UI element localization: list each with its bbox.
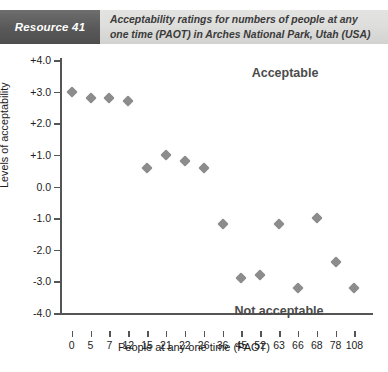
x-tick-mark [91, 331, 93, 337]
x-tick-mark [204, 331, 206, 337]
x-tick-mark [72, 331, 74, 337]
y-tick-label: 0.0 [36, 181, 51, 193]
y-tick-mark [54, 155, 60, 157]
data-point [141, 162, 152, 173]
y-tick-label: -2.0 [33, 244, 51, 256]
x-tick-mark [241, 331, 243, 337]
y-tick-mark [54, 313, 60, 315]
x-tick-mark [260, 331, 262, 337]
annotation-acceptable: Acceptable [252, 66, 319, 80]
y-tick-mark [54, 250, 60, 252]
annotation-not-acceptable: Not acceptable [235, 304, 324, 318]
data-point [66, 86, 77, 97]
x-tick-mark [298, 331, 300, 337]
data-point [349, 282, 360, 293]
chart-title-line-1: Acceptability ratings for numbers of peo… [110, 13, 382, 28]
data-point [311, 212, 322, 223]
x-tick-mark [336, 331, 338, 337]
y-tick-label: -4.0 [33, 307, 51, 319]
x-tick-mark [279, 331, 281, 337]
plot-area: +4.0+3.0+2.0+1.00.0-1.0-2.0-3.0-4.0 0571… [60, 60, 372, 313]
y-tick-mark [54, 281, 60, 283]
y-tick-label: -3.0 [33, 275, 51, 287]
data-point [104, 92, 115, 103]
data-point [123, 95, 134, 106]
data-point [292, 282, 303, 293]
data-point [273, 219, 284, 230]
y-tick-mark [54, 123, 60, 125]
data-point [236, 273, 247, 284]
data-point [198, 162, 209, 173]
y-tick-mark [54, 218, 60, 220]
scatter-chart: +4.0+3.0+2.0+1.00.0-1.0-2.0-3.0-4.0 0571… [0, 44, 388, 372]
data-point [330, 257, 341, 268]
data-point [179, 156, 190, 167]
y-tick-label: -1.0 [33, 212, 51, 224]
y-tick-mark [54, 92, 60, 94]
data-point [160, 149, 171, 160]
x-axis-label: People at any one time (PAOT) [0, 341, 388, 353]
y-tick-mark [54, 187, 60, 189]
x-tick-mark [317, 331, 319, 337]
y-tick-label: +1.0 [30, 149, 51, 161]
y-tick-label: +3.0 [30, 86, 51, 98]
y-tick-label: +4.0 [30, 54, 51, 66]
x-tick-mark [185, 331, 187, 337]
resource-header-band: Resource 41 Acceptability ratings for nu… [0, 10, 388, 44]
x-tick-mark [128, 331, 130, 337]
y-tick-mark [54, 60, 60, 62]
x-tick-mark [109, 331, 111, 337]
chart-title: Acceptability ratings for numbers of peo… [100, 10, 388, 44]
chart-title-line-2: one time (PAOT) in Arches National Park,… [110, 28, 382, 43]
data-point [217, 219, 228, 230]
y-tick-label: +2.0 [30, 117, 51, 129]
y-axis-label: Levels of acceptability [0, 82, 10, 188]
x-tick-mark [354, 331, 356, 337]
x-tick-mark [223, 331, 225, 337]
x-axis-line [60, 313, 373, 315]
x-tick-mark [147, 331, 149, 337]
x-tick-mark [166, 331, 168, 337]
data-point [85, 92, 96, 103]
data-point [255, 269, 266, 280]
resource-tag: Resource 41 [0, 10, 100, 44]
